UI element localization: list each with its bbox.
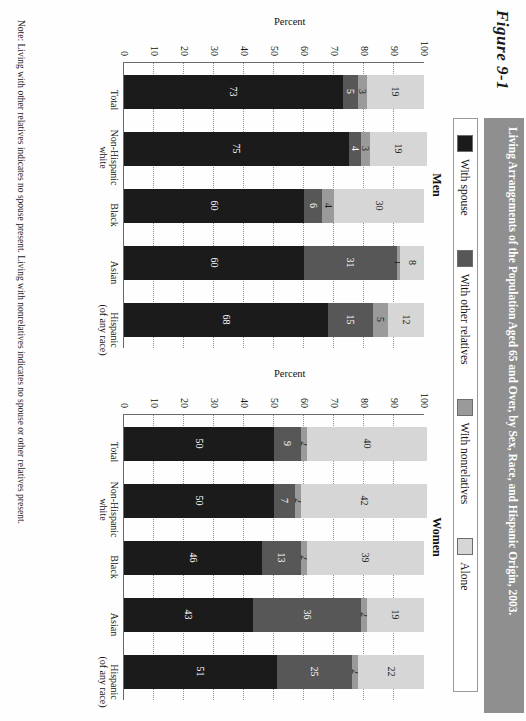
bar-value-label: 50 bbox=[194, 439, 204, 449]
y-axis-tick: 30 bbox=[209, 382, 220, 408]
stacked-bar[interactable]: 4336219 bbox=[124, 598, 424, 632]
bar-value-label: 19 bbox=[391, 87, 401, 97]
bar-segment: 19 bbox=[367, 598, 424, 632]
bars-plot: 7353197543196064306031186815512 bbox=[123, 62, 424, 348]
bar-value-label: 36 bbox=[302, 610, 312, 620]
legend-item-0: With spouse bbox=[458, 135, 474, 216]
legend-swatch-icon bbox=[458, 250, 474, 267]
bar-segment: 15 bbox=[328, 303, 373, 337]
bar-segment: 5 bbox=[343, 75, 358, 109]
bar-segment: 60 bbox=[124, 246, 304, 280]
bar-segment: 40 bbox=[307, 427, 427, 461]
y-axis-tick: 100 bbox=[419, 30, 430, 56]
bar-segment: 9 bbox=[274, 427, 301, 461]
rotated-figure-canvas: Figure 9-1 Living Arrangements of the Po… bbox=[0, 0, 526, 721]
figure-number: Figure 9-1 bbox=[492, 10, 512, 90]
legend-label: With spouse bbox=[460, 159, 472, 216]
y-axis-tick: 40 bbox=[239, 30, 250, 56]
bar-value-label: 4 bbox=[350, 146, 360, 151]
stacked-bar[interactable]: 603118 bbox=[124, 246, 424, 280]
bars-plot: 509240507242461323943362195125222 bbox=[123, 414, 424, 700]
bar-value-label: 8 bbox=[407, 260, 417, 265]
bar-segment: 3 bbox=[358, 75, 367, 109]
legend-swatch-icon bbox=[458, 538, 474, 555]
bar-segment: 6 bbox=[304, 189, 322, 223]
legend-label: With other relatives bbox=[460, 274, 472, 365]
bar-value-label: 60 bbox=[209, 258, 219, 268]
legend-label: With nonrelatives bbox=[460, 423, 472, 505]
bar-segment: 19 bbox=[370, 132, 427, 166]
bar-value-label: 5 bbox=[346, 89, 356, 94]
bar-segment: 7 bbox=[274, 484, 295, 518]
bar-value-label: 31 bbox=[346, 258, 356, 268]
y-axis-tick: 70 bbox=[329, 30, 340, 56]
legend-item-2: With nonrelatives bbox=[458, 399, 474, 505]
y-axis-tick: 50 bbox=[269, 382, 280, 408]
stacked-bar[interactable]: 509240 bbox=[124, 427, 424, 461]
y-axis-tick: 10 bbox=[149, 382, 160, 408]
bar-segment: 36 bbox=[253, 598, 361, 632]
bar-value-label: 60 bbox=[209, 201, 219, 211]
bar-value-label: 19 bbox=[394, 144, 404, 154]
stacked-bar[interactable]: 735319 bbox=[124, 75, 424, 109]
bar-segment: 22 bbox=[358, 655, 424, 689]
bar-value-label: 13 bbox=[277, 553, 287, 563]
legend-item-3: Alone bbox=[458, 538, 474, 590]
bar-value-label: 30 bbox=[374, 201, 384, 211]
bar-segment: 51 bbox=[124, 655, 277, 689]
bar-segment: 60 bbox=[124, 189, 304, 223]
panel-title-women: Women bbox=[429, 372, 444, 702]
y-axis-label: Percent bbox=[274, 16, 306, 27]
bar-segment: 5 bbox=[373, 303, 388, 337]
bar-segment: 75 bbox=[124, 132, 349, 166]
bar-group: 509240507242461323943362195125222 bbox=[124, 415, 424, 700]
bar-value-label: 25 bbox=[310, 667, 320, 677]
bar-value-label: 75 bbox=[232, 144, 242, 154]
bar-value-label: 51 bbox=[196, 667, 206, 677]
chart-legend: With spouseWith other relativesWith nonr… bbox=[453, 118, 478, 692]
y-axis-tick: 90 bbox=[389, 382, 400, 408]
stacked-bar[interactable]: 5125222 bbox=[124, 655, 424, 689]
y-axis-tick: 20 bbox=[179, 30, 190, 56]
stacked-bar[interactable]: 507242 bbox=[124, 484, 424, 518]
bar-segment: 12 bbox=[388, 303, 424, 337]
y-axis-tick: 100 bbox=[419, 382, 430, 408]
bar-segment: 25 bbox=[277, 655, 352, 689]
legend-swatch-icon bbox=[458, 399, 474, 416]
bar-segment: 46 bbox=[124, 541, 262, 575]
bar-group: 7353197543196064306031186815512 bbox=[124, 63, 424, 348]
bar-value-label: 5 bbox=[376, 317, 386, 322]
bar-segment: 30 bbox=[334, 189, 424, 223]
bar-value-label: 3 bbox=[358, 89, 368, 94]
y-axis-tick: 60 bbox=[299, 30, 310, 56]
bar-value-label: 4 bbox=[323, 203, 333, 208]
bar-value-label: 6 bbox=[308, 203, 318, 208]
figure-note: Note: Living with other relatives indica… bbox=[16, 20, 26, 710]
bar-segment: 4 bbox=[322, 189, 334, 223]
bar-segment: 31 bbox=[304, 246, 397, 280]
bar-value-label: 46 bbox=[188, 553, 198, 563]
plot-area: Percent100908070605040302010050924050724… bbox=[72, 372, 424, 702]
bar-value-label: 19 bbox=[391, 610, 401, 620]
y-axis-tick: 70 bbox=[329, 382, 340, 408]
legend-item-1: With other relatives bbox=[458, 250, 474, 365]
y-axis-tick: 90 bbox=[389, 30, 400, 56]
bar-value-label: 12 bbox=[401, 315, 411, 325]
stacked-bar[interactable]: 6815512 bbox=[124, 303, 424, 337]
y-axis-tick: 0 bbox=[119, 30, 130, 56]
figure-title: Living Arrangements of the Population Ag… bbox=[506, 127, 520, 704]
bar-segment: 50 bbox=[124, 484, 274, 518]
stacked-bar[interactable]: 606430 bbox=[124, 189, 424, 223]
bar-value-label: 42 bbox=[359, 496, 369, 506]
bar-segment: 13 bbox=[262, 541, 301, 575]
panel-title-men: Men bbox=[429, 20, 444, 350]
y-axis-tick: 80 bbox=[359, 382, 370, 408]
stacked-bar[interactable]: 4613239 bbox=[124, 541, 424, 575]
bar-segment: 8 bbox=[400, 246, 424, 280]
stacked-bar[interactable]: 754319 bbox=[124, 132, 424, 166]
legend-swatch-icon bbox=[458, 135, 474, 152]
y-axis-tick: 0 bbox=[119, 382, 130, 408]
bar-segment: 50 bbox=[124, 427, 274, 461]
x-axis-tick-label: Hispanic(of any race) bbox=[98, 644, 120, 720]
bar-value-label: 43 bbox=[184, 610, 194, 620]
